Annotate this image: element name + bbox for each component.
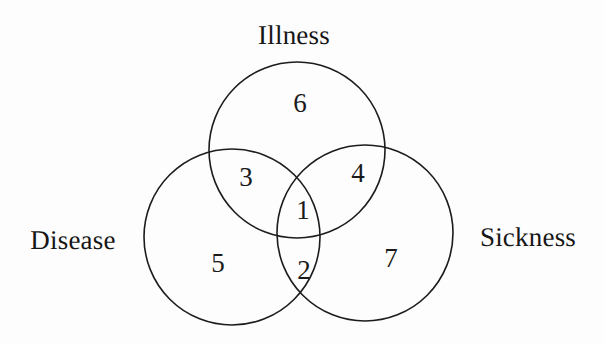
region-label-illness-disease: 3 <box>239 162 253 193</box>
set-label-illness: Illness <box>258 20 330 51</box>
circle-disease <box>144 149 320 325</box>
region-label-disease-sickness: 2 <box>297 255 311 286</box>
region-label-illness-only: 6 <box>293 88 307 119</box>
region-label-illness-sickness: 4 <box>351 158 365 189</box>
set-label-disease: Disease <box>30 225 115 256</box>
venn-circles-canvas <box>0 0 604 344</box>
region-label-disease-only: 5 <box>211 248 225 279</box>
venn-diagram-figure: Illness Disease Sickness 6 3 4 1 5 2 7 <box>0 0 604 344</box>
region-label-all-three: 1 <box>296 195 310 226</box>
set-label-sickness: Sickness <box>480 222 576 253</box>
region-label-sickness-only: 7 <box>384 243 398 274</box>
